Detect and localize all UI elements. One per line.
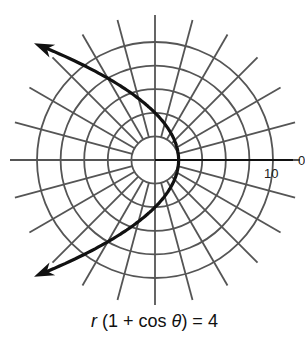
polar-axis-label: 0 <box>298 153 305 168</box>
equation-theta: θ <box>172 311 182 331</box>
grid-spoke <box>117 183 148 300</box>
grid-spoke <box>178 122 295 153</box>
grid-spoke <box>161 20 192 137</box>
equation-mid: (1 + cos <box>97 311 172 331</box>
grid-spoke <box>161 183 192 300</box>
polar-plot: 10 0 <box>0 0 305 312</box>
equation-caption: r (1 + cos θ) = 4 <box>2 311 305 332</box>
radial-tick-label: 10 <box>264 166 278 181</box>
grid-spoke <box>15 122 132 153</box>
grid-spoke <box>117 20 148 137</box>
equation-end: ) = 4 <box>181 311 218 331</box>
grid-spoke <box>15 166 132 197</box>
